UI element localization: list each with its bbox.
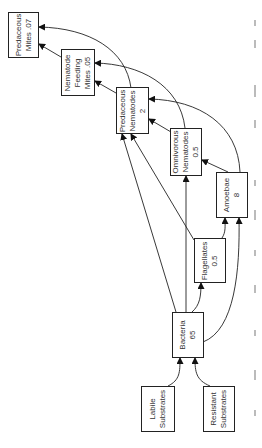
node-label: 8 xyxy=(232,178,242,212)
node-label: Omnivorous xyxy=(171,130,181,173)
faint-caption-marks xyxy=(252,10,258,440)
edge-omnivorous-to-predaceous-nematodes xyxy=(149,119,171,132)
node-resistant-substrates: ResistantSubstrates xyxy=(203,386,235,432)
node-amoebae: Amoebae8 xyxy=(216,172,248,218)
edge-bacteria-to-predaceous-nematodes xyxy=(122,134,176,312)
edge-flagellates-to-amoebae xyxy=(222,218,225,238)
node-label: 65 xyxy=(188,320,198,349)
edge-nfm-to-pm xyxy=(39,44,61,57)
edge-resistant-to-bacteria xyxy=(195,358,210,386)
edges-layer xyxy=(0,0,262,448)
node-bacteria: Bacteria65 xyxy=(172,312,204,358)
node-label: Mites .05 xyxy=(83,54,93,91)
node-label: Bacteria xyxy=(178,320,188,349)
node-label: Predaceous xyxy=(14,14,24,57)
node-label: Nematodes xyxy=(128,89,138,132)
node-label: Nematode xyxy=(63,54,73,91)
node-flagellates: Flagellates0.5 xyxy=(194,238,226,283)
node-label: Substrates xyxy=(219,390,229,428)
node-label: Resistant xyxy=(209,390,219,428)
node-label: Feeding xyxy=(73,54,83,91)
node-label: Labile xyxy=(148,390,158,428)
node-label: 0.5 xyxy=(191,130,201,173)
node-label: Substrates xyxy=(158,390,168,428)
node-predaceous-nematodes: PredaceousNematodes2 xyxy=(116,87,149,134)
edge-predaceous-nematodes-to-nfm xyxy=(95,81,116,93)
node-label: Nematodes xyxy=(181,130,191,173)
node-label: Predaceous xyxy=(118,89,128,132)
edge-labile-to-bacteria xyxy=(168,358,180,386)
node-label: 2 xyxy=(138,89,148,132)
edge-bacteria-to-flagellates xyxy=(192,283,201,312)
node-label: Flagellates xyxy=(200,241,210,280)
node-label: Mites .07 xyxy=(24,14,34,57)
node-label: Amoebae xyxy=(222,178,232,212)
node-predaceous-mites: PredaceousMites .07 xyxy=(8,12,39,58)
node-label: 0.5 xyxy=(210,241,220,280)
node-omnivorous-nematodes: OmnivorousNematodes0.5 xyxy=(170,128,202,176)
node-labile-substrates: LabileSubstrates xyxy=(141,386,175,432)
node-nematode-feeding-mites: NematodeFeedingMites .05 xyxy=(61,49,95,96)
edge-amoebae-to-omnivorous xyxy=(202,160,228,172)
